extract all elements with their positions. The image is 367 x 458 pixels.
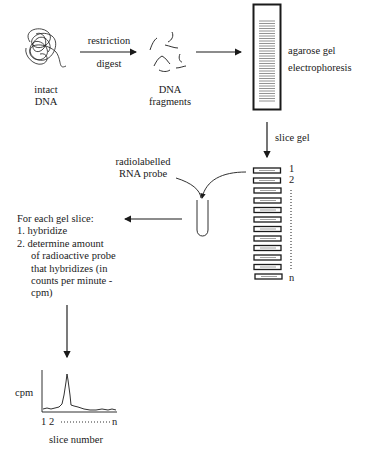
probe-label-line2: RNA probe <box>110 168 176 180</box>
probe-curve <box>176 178 201 198</box>
fragments-label-line2: fragments <box>142 96 198 108</box>
procedure-step2-line2: of radioactive probe <box>17 250 116 262</box>
dna-fragments-icon <box>150 32 186 72</box>
test-tube-icon <box>197 200 208 236</box>
chart-ylabel: cpm <box>15 387 33 399</box>
chart-xtick-2: 2 <box>49 416 54 428</box>
gel-slices <box>254 168 283 279</box>
gel-label-line1: agarose gel <box>288 45 352 57</box>
procedure-step2-line5: cpm) <box>17 287 116 299</box>
fragments-label-line1: DNA <box>142 84 198 96</box>
slice-label-2: 2 <box>289 174 294 186</box>
intact-label-line2: DNA <box>26 96 66 108</box>
slice-gel-label: slice gel <box>275 132 310 144</box>
dna-fragments-label: DNA fragments <box>142 84 198 108</box>
probe-label: radiolabelled RNA probe <box>110 156 176 180</box>
chart-xtick-n: n <box>112 416 117 428</box>
procedure-heading: For each gel slice: <box>17 213 116 225</box>
procedure-step2-line3: that hybridizes (in <box>17 263 116 275</box>
intact-dna-icon <box>26 29 66 67</box>
procedure-step2-line4: counts per minute - <box>17 275 116 287</box>
chart-xtick-1: 1 <box>41 416 46 428</box>
cpm-chart <box>42 370 117 422</box>
procedure-step2-line1: 2. determine amount <box>17 238 116 250</box>
gel-label: agarose gel electrophoresis <box>288 45 352 74</box>
probe-label-line1: radiolabelled <box>110 156 176 168</box>
procedure-step1: 1. hybridize <box>17 225 116 237</box>
agarose-gel-icon <box>254 5 281 110</box>
intact-dna-label: intact DNA <box>26 84 66 108</box>
slice-label-n: n <box>289 272 294 284</box>
digest-label: digest <box>78 58 140 70</box>
chart-xlabel: slice number <box>49 434 103 446</box>
slice-to-tube-curve <box>202 172 246 198</box>
intact-label-line1: intact <box>26 84 66 96</box>
gel-label-line2: electrophoresis <box>288 62 352 74</box>
restriction-label: restriction <box>78 35 140 47</box>
procedure-text: For each gel slice: 1. hybridize 2. dete… <box>17 213 116 300</box>
